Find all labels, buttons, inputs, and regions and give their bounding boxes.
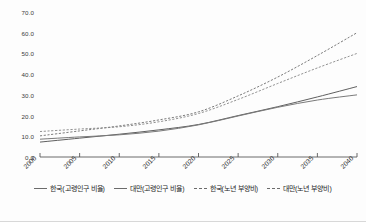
chart-legend: 한국(고령인구 비율)대만(고령인구 비율)한국(노년 부양비)대만(노년 부양… xyxy=(0,183,366,193)
y-axis-tick-label: 70.0 xyxy=(8,9,34,16)
chart-container: 0.010.020.030.040.050.060.070.0 20002005… xyxy=(0,0,366,222)
series-line-3 xyxy=(40,33,357,136)
legend-line-swatch-icon xyxy=(267,188,280,189)
y-axis-tick-label: 10.0 xyxy=(8,133,34,140)
legend-line-swatch-icon xyxy=(114,188,127,189)
series-line-4 xyxy=(40,53,357,131)
legend-line-swatch-icon xyxy=(194,188,207,189)
legend-item-label: 대만(고령인구 비율) xyxy=(130,183,185,193)
legend-line-swatch-icon xyxy=(34,188,47,189)
legend-item-label: 대만(노년 부양비) xyxy=(283,183,332,193)
chart-svg xyxy=(0,0,366,175)
y-axis-tick-label: 60.0 xyxy=(8,29,34,36)
legend-item[interactable]: 대만(노년 부양비) xyxy=(267,183,332,193)
plot-area xyxy=(0,0,366,175)
legend-item[interactable]: 한국(노년 부양비) xyxy=(194,183,259,193)
legend-item[interactable]: 한국(고령인구 비율) xyxy=(34,183,105,193)
legend-item[interactable]: 대만(고령인구 비율) xyxy=(114,183,185,193)
y-axis-tick-label: 40.0 xyxy=(8,71,34,78)
legend-item-label: 한국(고령인구 비율) xyxy=(50,183,105,193)
y-axis-tick-label: 20.0 xyxy=(8,112,34,119)
y-axis-tick-label: 50.0 xyxy=(8,50,34,57)
series-line-1 xyxy=(40,87,357,143)
legend-item-label: 한국(노년 부양비) xyxy=(210,183,259,193)
y-axis-tick-label: 30.0 xyxy=(8,91,34,98)
series-line-2 xyxy=(40,95,357,139)
